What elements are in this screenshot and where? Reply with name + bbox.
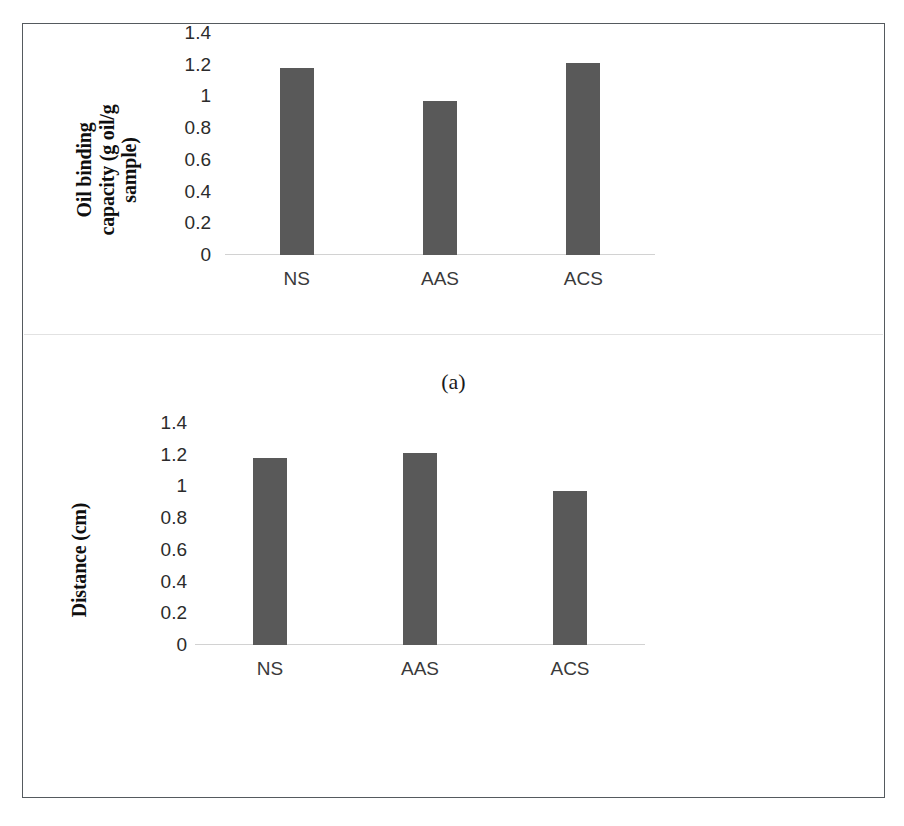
y-tick-label: 1.4 — [161, 412, 187, 434]
x-tick-label: ACS — [564, 268, 603, 290]
y-tick-label: 0.2 — [161, 602, 187, 624]
bar-chart-b: Distance (cm) 00.20.40.60.811.21.4 NSAAS… — [31, 418, 651, 703]
bar-slot — [368, 33, 511, 255]
y-tick-label: 0.2 — [185, 212, 211, 234]
bar-aas — [423, 101, 457, 255]
panel-caption-a: (a) — [23, 369, 884, 395]
bar-slot — [225, 33, 368, 255]
bar-aas — [403, 453, 437, 645]
bar-acs — [566, 63, 600, 255]
bar-slot — [345, 423, 495, 645]
bar-chart-a: Oil binding capacity (g oil/g sample) 00… — [59, 28, 679, 313]
y-tick-label: 0.4 — [185, 181, 211, 203]
plot-area-b — [195, 423, 645, 645]
chart-panel-a: Oil binding capacity (g oil/g sample) 00… — [23, 24, 884, 394]
x-axis-labels-b: NSAASACS — [195, 658, 645, 688]
y-tick-label: 0.4 — [161, 571, 187, 593]
y-tick-label: 1.2 — [185, 54, 211, 76]
y-tick-label: 1 — [200, 85, 211, 107]
y-tick-label: 0 — [176, 634, 187, 656]
y-tick-label: 1.2 — [161, 444, 187, 466]
y-axis-title-line-3: sample) — [118, 137, 140, 202]
y-axis-title-line-2: capacity (g oil/g — [96, 104, 118, 235]
plot-area-a — [225, 33, 655, 255]
bar-acs — [553, 491, 587, 645]
y-tick-label: 1.4 — [185, 22, 211, 44]
bar-slot — [495, 423, 645, 645]
figure-frame: Oil binding capacity (g oil/g sample) 00… — [22, 23, 885, 798]
x-tick-label: AAS — [421, 268, 459, 290]
y-axis-title-line-1: Distance (cm) — [68, 503, 90, 618]
x-tick-label: NS — [257, 658, 283, 680]
y-tick-label: 0.8 — [161, 507, 187, 529]
bar-slot — [195, 423, 345, 645]
x-tick-label: AAS — [401, 658, 439, 680]
x-tick-label: ACS — [550, 658, 589, 680]
y-tick-label: 1 — [176, 475, 187, 497]
y-axis-ticks-b: 00.20.40.60.811.21.4 — [135, 423, 187, 645]
panel-divider-a — [24, 334, 883, 335]
y-tick-label: 0 — [200, 244, 211, 266]
y-axis-title-line-1: Oil binding — [73, 122, 95, 217]
x-tick-label: NS — [283, 268, 309, 290]
y-axis-title-a: Oil binding capacity (g oil/g sample) — [59, 54, 155, 286]
bar-ns — [280, 68, 314, 255]
y-tick-label: 0.6 — [185, 149, 211, 171]
y-axis-title-b: Distance (cm) — [31, 442, 127, 678]
bar-ns — [253, 458, 287, 645]
y-axis-ticks-a: 00.20.40.60.811.21.4 — [159, 33, 211, 255]
x-axis-labels-a: NSAASACS — [225, 268, 655, 298]
y-tick-label: 0.8 — [185, 117, 211, 139]
chart-panel-b: Distance (cm) 00.20.40.60.811.21.4 NSAAS… — [23, 396, 884, 796]
y-tick-label: 0.6 — [161, 539, 187, 561]
bar-slot — [512, 33, 655, 255]
